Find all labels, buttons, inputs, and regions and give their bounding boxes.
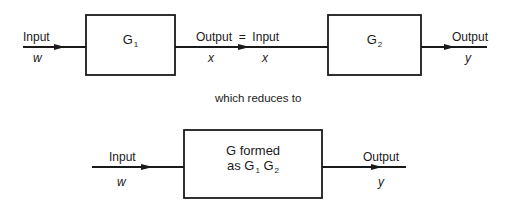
reduced-input-variable: w: [117, 176, 126, 188]
input-label: Input: [23, 31, 50, 43]
reduced-output-label: Output: [363, 151, 399, 163]
connector-variable-left: x: [208, 52, 214, 64]
connector-variable-right: x: [262, 52, 268, 64]
block-g1-label: G1: [86, 32, 175, 52]
block-g-combined-label: G formed as G1 G2: [184, 143, 322, 178]
reduced-input-label: Input: [109, 151, 136, 163]
arrow-icon: [54, 44, 65, 50]
arrow-icon: [444, 44, 455, 50]
output-variable: y: [465, 52, 471, 64]
output-label: Output: [452, 31, 488, 43]
arrow-icon: [371, 164, 382, 170]
arrow-icon: [141, 164, 153, 170]
arrow-icon: [238, 44, 250, 50]
connector-label: Output = Input: [196, 31, 279, 43]
reduced-output-variable: y: [378, 176, 384, 188]
input-variable: w: [33, 52, 42, 64]
caption: which reduces to: [215, 92, 301, 104]
block-g2-label: G2: [328, 32, 421, 52]
